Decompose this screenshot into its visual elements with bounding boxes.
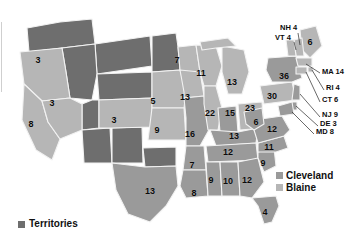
state-label-sc: 9 [260,159,265,168]
state-label-md: MD 8 [316,128,334,136]
state-michigan [222,46,249,94]
state-label-ri: RI 4 [326,84,340,92]
state-utah-territory [82,100,99,130]
state-indian-territory [143,147,176,167]
state-massachusetts [296,58,312,66]
state-label-nc: 11 [264,143,274,152]
territories-legend: Territories [18,219,78,229]
us-map-svg [0,0,354,252]
state-label-ar: 7 [189,161,194,170]
state-label-nh: NH 4 [280,24,297,32]
state-label-in: 15 [225,109,235,118]
state-label-co: 3 [111,116,116,125]
state-label-va: 12 [267,125,277,134]
callout-line-4 [306,72,320,102]
state-arizona-territory [82,128,112,163]
state-label-ga: 12 [242,176,252,185]
legend-swatch-blaine [276,184,283,191]
state-label-ks: 9 [154,126,159,135]
state-label-il: 22 [205,109,215,118]
state-wyoming-territory [97,72,152,100]
legend-label-territories: Territories [29,219,78,229]
state-label-pa: 30 [267,92,277,101]
callout-line-6 [296,106,318,126]
legend-swatch-cleveland [276,172,283,179]
state-label-ne: 5 [150,97,155,106]
state-montana-territory [95,36,152,74]
state-label-al: 10 [223,177,233,186]
state-label-la: 8 [191,189,196,198]
state-label-tx: 13 [145,187,155,196]
state-label-mo: 16 [185,130,195,139]
state-label-ky: 13 [229,132,239,141]
state-label-or: 3 [35,56,40,65]
legend-swatch-territories [18,221,25,228]
state-label-me: 6 [307,38,312,47]
legend-label-cleveland: Cleveland [286,171,333,181]
electoral-map: 3383591371311131622152313127891012491112… [0,0,354,252]
state-connecticut [296,67,307,74]
state-dakota-territory [152,33,180,72]
legend-item-cleveland: Cleveland [276,170,333,181]
party-legend: Cleveland Blaine [276,170,333,194]
legend-label-blaine: Blaine [286,183,316,193]
callout-line-7 [292,112,314,134]
state-vermont [286,40,296,56]
state-label-ia: 13 [180,93,190,102]
legend-item-blaine: Blaine [276,182,333,193]
state-maryland [278,102,294,116]
callout-line-5 [300,94,320,117]
state-label-ma: MA 14 [322,68,344,76]
state-pennsylvania [260,82,296,104]
state-label-nj: NJ 9 [322,111,338,119]
state-label-wi: 11 [196,69,206,78]
state-label-ct: CT 6 [322,96,338,104]
state-label-nv: 3 [49,99,54,108]
state-colorado [99,98,152,128]
state-label-ca: 8 [28,120,33,129]
state-new-mexico-territory [112,127,143,163]
state-label-fl: 4 [262,208,267,217]
state-label-wv: 6 [253,118,258,127]
state-label-oh: 23 [245,104,255,113]
state-label-ms: 9 [208,176,213,185]
state-label-tn: 12 [223,148,233,157]
state-label-mi: 13 [227,78,237,87]
state-label-ny: 36 [279,72,289,81]
state-new-jersey [292,84,300,100]
state-label-vt: VT 4 [275,34,291,42]
state-label-mn: 7 [174,56,179,65]
